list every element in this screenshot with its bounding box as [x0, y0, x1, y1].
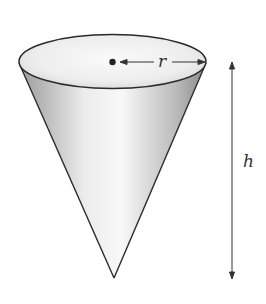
center-dot — [109, 59, 115, 65]
height-arrow — [230, 62, 235, 279]
cone-figure: r h — [0, 0, 266, 304]
cone-body — [19, 62, 206, 278]
height-label: h — [243, 151, 254, 171]
cone-diagram: r h — [0, 0, 266, 304]
radius-label: r — [158, 51, 167, 71]
